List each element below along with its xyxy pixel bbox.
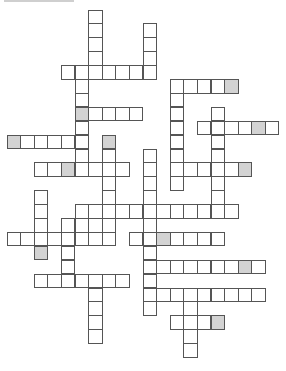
crossword-cell[interactable] (211, 260, 226, 275)
crossword-cell[interactable] (75, 135, 90, 150)
crossword-cell[interactable] (129, 65, 144, 80)
crossword-cell[interactable] (20, 135, 35, 150)
crossword-cell[interactable] (170, 176, 185, 191)
crossword-cell[interactable] (75, 218, 90, 233)
crossword-cell[interactable] (61, 65, 76, 80)
crossword-cell[interactable] (170, 135, 185, 150)
crossword-cell[interactable] (102, 149, 117, 164)
crossword-cell[interactable] (183, 79, 198, 94)
crossword-cell-shaded[interactable] (61, 162, 76, 177)
crossword-cell[interactable] (61, 260, 76, 275)
crossword-cell[interactable] (61, 135, 76, 150)
crossword-cell[interactable] (34, 135, 49, 150)
crossword-cell[interactable] (88, 51, 103, 66)
crossword-cell[interactable] (115, 65, 130, 80)
crossword-cell[interactable] (170, 315, 185, 330)
crossword-cell[interactable] (47, 232, 62, 247)
crossword-cell[interactable] (143, 51, 158, 66)
crossword-cell[interactable] (88, 274, 103, 289)
crossword-cell[interactable] (143, 246, 158, 261)
crossword-cell[interactable] (170, 93, 185, 108)
crossword-cell[interactable] (197, 232, 212, 247)
crossword-cell-shaded[interactable] (238, 260, 253, 275)
crossword-cell[interactable] (75, 149, 90, 164)
crossword-cell[interactable] (88, 10, 103, 25)
crossword-cell-shaded[interactable] (75, 107, 90, 122)
crossword-cell[interactable] (170, 149, 185, 164)
crossword-cell[interactable] (224, 288, 239, 303)
crossword-cell[interactable] (143, 232, 158, 247)
crossword-cell[interactable] (143, 204, 158, 219)
crossword-cell[interactable] (143, 37, 158, 52)
crossword-cell[interactable] (156, 260, 171, 275)
crossword-cell[interactable] (75, 79, 90, 94)
crossword-cell[interactable] (143, 218, 158, 233)
crossword-cell[interactable] (102, 107, 117, 122)
crossword-cell[interactable] (34, 232, 49, 247)
crossword-cell[interactable] (143, 176, 158, 191)
crossword-cell[interactable] (88, 162, 103, 177)
crossword-cell[interactable] (143, 288, 158, 303)
crossword-cell[interactable] (156, 204, 171, 219)
crossword-cell[interactable] (47, 274, 62, 289)
crossword-cell[interactable] (211, 176, 226, 191)
crossword-cell[interactable] (61, 232, 76, 247)
crossword-cell[interactable] (75, 232, 90, 247)
crossword-cell[interactable] (129, 232, 144, 247)
crossword-cell[interactable] (88, 23, 103, 38)
crossword-cell[interactable] (183, 260, 198, 275)
crossword-cell[interactable] (143, 274, 158, 289)
crossword-cell[interactable] (251, 288, 266, 303)
crossword-cell[interactable] (102, 218, 117, 233)
crossword-cell-shaded[interactable] (34, 246, 49, 261)
crossword-cell[interactable] (197, 260, 212, 275)
crossword-cell[interactable] (238, 288, 253, 303)
crossword-cell[interactable] (129, 204, 144, 219)
crossword-cell[interactable] (170, 232, 185, 247)
crossword-cell[interactable] (183, 301, 198, 316)
crossword-cell[interactable] (75, 93, 90, 108)
crossword-cell[interactable] (102, 204, 117, 219)
crossword-cell[interactable] (183, 288, 198, 303)
crossword-cell[interactable] (115, 204, 130, 219)
crossword-cell[interactable] (238, 121, 253, 136)
crossword-cell[interactable] (88, 232, 103, 247)
crossword-cell[interactable] (143, 23, 158, 38)
crossword-cell-shaded[interactable] (251, 121, 266, 136)
crossword-cell[interactable] (143, 190, 158, 205)
crossword-cell[interactable] (224, 121, 239, 136)
crossword-cell[interactable] (211, 190, 226, 205)
crossword-cell[interactable] (224, 204, 239, 219)
crossword-cell[interactable] (183, 204, 198, 219)
crossword-cell[interactable] (143, 65, 158, 80)
crossword-cell[interactable] (170, 107, 185, 122)
crossword-cell[interactable] (211, 107, 226, 122)
crossword-cell[interactable] (102, 162, 117, 177)
crossword-cell[interactable] (20, 232, 35, 247)
crossword-cell[interactable] (75, 121, 90, 136)
crossword-cell[interactable] (7, 232, 22, 247)
crossword-cell[interactable] (211, 162, 226, 177)
crossword-cell[interactable] (75, 65, 90, 80)
crossword-cell[interactable] (75, 204, 90, 219)
crossword-cell-shaded[interactable] (156, 232, 171, 247)
crossword-cell[interactable] (88, 37, 103, 52)
crossword-cell[interactable] (47, 135, 62, 150)
crossword-cell[interactable] (143, 301, 158, 316)
crossword-cell[interactable] (211, 232, 226, 247)
crossword-cell[interactable] (211, 79, 226, 94)
crossword-cell[interactable] (88, 107, 103, 122)
crossword-cell[interactable] (102, 232, 117, 247)
crossword-cell[interactable] (170, 204, 185, 219)
crossword-cell[interactable] (143, 162, 158, 177)
crossword-cell[interactable] (170, 121, 185, 136)
crossword-cell[interactable] (115, 107, 130, 122)
crossword-cell[interactable] (183, 162, 198, 177)
crossword-cell[interactable] (102, 176, 117, 191)
crossword-cell[interactable] (61, 274, 76, 289)
crossword-cell[interactable] (88, 288, 103, 303)
crossword-cell[interactable] (34, 190, 49, 205)
crossword-cell[interactable] (102, 190, 117, 205)
crossword-cell[interactable] (88, 65, 103, 80)
crossword-cell[interactable] (183, 315, 198, 330)
